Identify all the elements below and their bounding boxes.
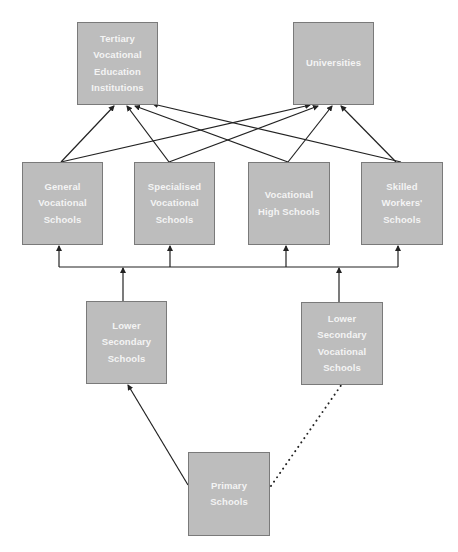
- edge-specialised-to-universities: [169, 106, 318, 162]
- edge-general-to-tertiary: [61, 106, 114, 162]
- node-primary-schools: Primary Schools: [188, 452, 270, 536]
- node-lower-secondary-vocational-schools: Lower Secondary Vocational Schools: [301, 302, 383, 385]
- node-general-vocational-schools: General Vocational Schools: [22, 162, 103, 245]
- node-lower-secondary-schools: Lower Secondary Schools: [86, 301, 167, 384]
- node-label: Vocational High Schools: [258, 187, 320, 220]
- node-label: Primary Schools: [210, 478, 248, 511]
- node-label: Skilled Workers' Schools: [382, 179, 423, 229]
- education-pathway-diagram: Tertiary Vocational Education Institutio…: [0, 0, 458, 552]
- node-vocational-high-schools: Vocational High Schools: [248, 162, 330, 245]
- node-label: Specialised Vocational Schools: [148, 179, 201, 229]
- node-label: Universities: [306, 55, 361, 72]
- edge-primary-to-lowersec: [128, 385, 188, 485]
- node-skilled-workers-schools: Skilled Workers' Schools: [361, 162, 443, 245]
- node-label: Tertiary Vocational Education Institutio…: [91, 31, 143, 97]
- node-specialised-vocational-schools: Specialised Vocational Schools: [134, 162, 215, 245]
- node-label: General Vocational Schools: [38, 179, 86, 229]
- node-tertiary-vocational-education: Tertiary Vocational Education Institutio…: [77, 22, 158, 105]
- edge-skilled-to-universities: [341, 106, 396, 162]
- edge-specialised-to-tertiary: [127, 106, 169, 162]
- edge-general-to-universities: [61, 105, 310, 162]
- node-label: Lower Secondary Schools: [102, 318, 151, 368]
- edge-vochigh-to-tertiary: [135, 106, 288, 162]
- node-universities: Universities: [293, 22, 374, 105]
- node-label: Lower Secondary Vocational Schools: [317, 311, 366, 377]
- edge-primary-to-lowersecvoc-dotted: [271, 384, 342, 486]
